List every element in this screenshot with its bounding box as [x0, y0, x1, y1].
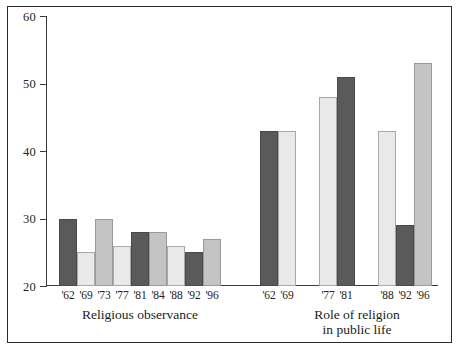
bar-g1-77 — [319, 97, 337, 286]
bar-g1-92 — [396, 225, 414, 286]
y-tick-label-50: 50 — [23, 77, 36, 92]
group-caption-right-line2: in public life — [272, 322, 442, 337]
x-label-g1-81: '81 — [333, 289, 359, 301]
y-tick-label-30: 30 — [23, 212, 36, 227]
bar-g1-69 — [278, 131, 296, 286]
bar-g1-62 — [260, 131, 278, 286]
y-tick-label-60: 60 — [23, 9, 36, 24]
x-label-g1-69: '69 — [274, 289, 300, 301]
bar-g0-81 — [131, 232, 149, 286]
bars-layer — [46, 16, 438, 286]
chart-figure: 6050403020 '62'69'73'77'81'84'88'92'96'6… — [0, 0, 459, 350]
x-label-g1-96: '96 — [410, 289, 436, 301]
bar-g1-81 — [337, 77, 355, 286]
group-caption-right-line1: Role of religion — [272, 307, 442, 322]
bar-g0-84 — [149, 232, 167, 286]
x-label-g0-96: '96 — [199, 289, 225, 301]
bar-g0-88 — [167, 246, 185, 287]
group-caption-left-line1: Religious observance — [40, 307, 240, 322]
x-axis-labels: '62'69'73'77'81'84'88'92'96'62'69'77'81'… — [0, 289, 459, 307]
group-caption-right: Role of religion in public life — [272, 307, 442, 337]
bar-g0-62 — [59, 219, 77, 287]
bar-g0-77 — [113, 246, 131, 287]
bar-g0-96 — [203, 239, 221, 286]
y-tick-20: 20 — [40, 286, 47, 287]
bar-g1-96 — [414, 63, 432, 286]
y-tick-label-40: 40 — [23, 144, 36, 159]
bar-g0-92 — [185, 252, 203, 286]
bar-g0-69 — [77, 252, 95, 286]
group-caption-left: Religious observance — [40, 307, 240, 322]
bar-g1-88 — [378, 131, 396, 286]
bar-g0-73 — [95, 219, 113, 287]
